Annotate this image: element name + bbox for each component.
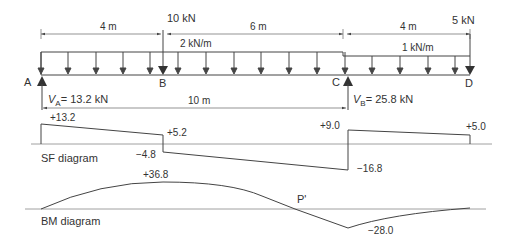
point-d-label: D xyxy=(465,77,473,89)
udl-loads xyxy=(38,52,470,75)
reaction-b-arrow xyxy=(343,76,353,110)
contraflexure-label: P' xyxy=(297,193,306,205)
udl-cd-label: 1 kN/m xyxy=(402,42,434,53)
sf-diagram-line xyxy=(41,124,470,170)
sf-diagram-label: SF diagram xyxy=(41,152,98,164)
point-a-label: A xyxy=(24,76,32,88)
beam-diagram: 4 m 6 m 4 m 10 kN 5 kN 2 kN/m 1 kN/m xyxy=(0,0,512,247)
dim-bc-label: 6 m xyxy=(250,21,267,32)
sf-b-right-value: −4.8 xyxy=(136,149,156,160)
point-b-label: B xyxy=(159,77,166,89)
udl-ac-label: 2 kN/m xyxy=(180,38,212,49)
load-d-label: 5 kN xyxy=(452,14,475,26)
reaction-a-arrow xyxy=(37,76,47,110)
dim-ab-label: 4 m xyxy=(100,21,117,32)
load-b-label: 10 kN xyxy=(167,12,196,24)
bm-min-value: −28.0 xyxy=(368,225,394,236)
reaction-a-label: VA= 13.2 kN xyxy=(48,93,108,108)
dim-cd-label: 4 m xyxy=(400,21,417,32)
sf-d-value: +5.0 xyxy=(466,121,486,132)
point-load-d-arrow xyxy=(465,34,475,75)
sf-b-left-value: +5.2 xyxy=(167,127,187,138)
reaction-b-label: VB= 25.8 kN xyxy=(353,93,413,108)
sf-a-value: +13.2 xyxy=(50,112,76,123)
sf-c-right-value: +9.0 xyxy=(320,120,340,131)
sf-c-left-value: −16.8 xyxy=(357,163,383,174)
point-c-label: C xyxy=(332,76,340,88)
bm-diagram-label: BM diagram xyxy=(41,215,100,227)
bm-diagram-line xyxy=(41,182,470,228)
dim-ac-label: 10 m xyxy=(188,95,210,106)
bm-max-value: +36.8 xyxy=(143,169,169,180)
